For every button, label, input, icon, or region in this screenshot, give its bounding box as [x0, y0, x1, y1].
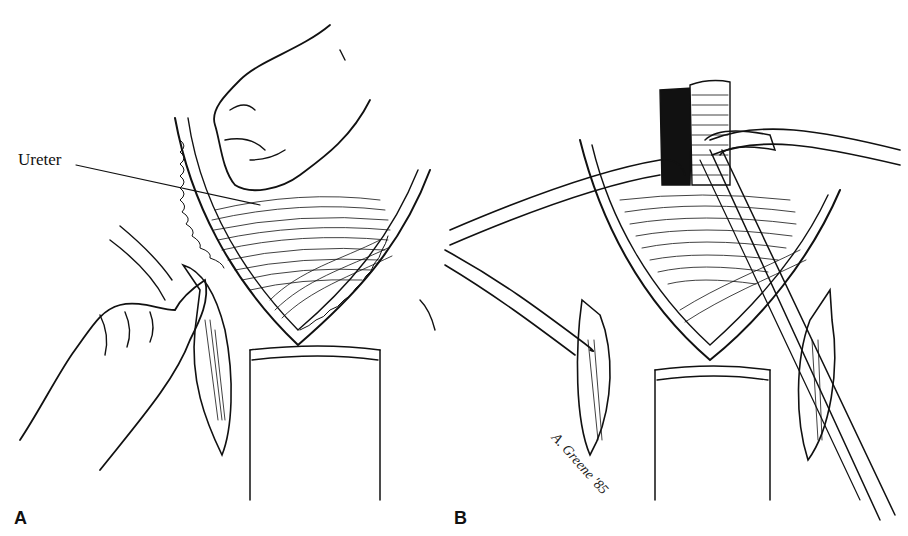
panel-label-b: B [454, 508, 467, 529]
illustration-drawing [0, 0, 908, 536]
panel-b-drawing [445, 81, 900, 520]
panel-a-drawing [20, 25, 435, 500]
panel-label-a: A [14, 508, 27, 529]
surgical-illustration-figure: Ureter A B A. Greene '85 [0, 0, 908, 536]
ureter-annotation-label: Ureter [18, 150, 61, 170]
